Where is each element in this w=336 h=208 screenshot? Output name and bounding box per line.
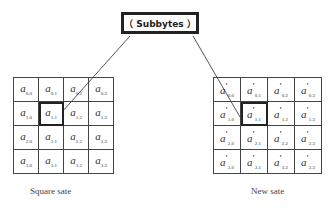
subbytes-box: （ Subbytes ） xyxy=(121,12,199,34)
state-cell: a2.3 xyxy=(89,126,114,150)
state-cell: a'1.1 xyxy=(241,102,268,126)
grid-row: a3.0a3.1a3.2a3.3 xyxy=(14,150,114,174)
grid-row: a'0.0a'0.1a'0.2a'0.3 xyxy=(214,78,322,102)
grid-row: a1.0a1.1a1.2a1.3 xyxy=(14,102,114,126)
new-state-caption: New sate xyxy=(251,186,284,196)
square-state-caption: Square sate xyxy=(30,186,71,196)
square-state-grid: a0.0a0.1a0.2a0.3a1.0a1.1a1.2a1.3a2.0a2.1… xyxy=(13,77,114,174)
state-cell: a'0.2 xyxy=(268,78,295,102)
state-cell: a'2.0 xyxy=(214,126,241,150)
state-cell: a2.0 xyxy=(14,126,39,150)
state-cell: a3.3 xyxy=(89,150,114,174)
state-cell: a'3.3 xyxy=(295,150,322,174)
state-cell: a2.2 xyxy=(64,126,89,150)
state-cell: a'3.2 xyxy=(268,150,295,174)
state-cell: a3.0 xyxy=(14,150,39,174)
grid-row: a'2.0a'2.1a'2.2a'2.3 xyxy=(214,126,322,150)
state-cell: a1.1 xyxy=(39,102,64,126)
new-state-grid: a'0.0a'0.1a'0.2a'0.3a'1.0a'1.1a'1.2a'1.3… xyxy=(213,77,322,174)
state-cell: a'3.1 xyxy=(241,150,268,174)
state-cell: a1.2 xyxy=(64,102,89,126)
state-cell: a'1.0 xyxy=(214,102,241,126)
state-cell: a'1.2 xyxy=(268,102,295,126)
state-cell: a1.0 xyxy=(14,102,39,126)
grid-row: a'3.0a'3.1a'3.2a'3.3 xyxy=(214,150,322,174)
state-cell: a3.1 xyxy=(39,150,64,174)
state-cell: a'2.1 xyxy=(241,126,268,150)
grid-row: a2.0a2.1a2.2a2.3 xyxy=(14,126,114,150)
state-cell: a3.2 xyxy=(64,150,89,174)
grid-row: a'1.0a'1.1a'1.2a'1.3 xyxy=(214,102,322,126)
state-cell: a1.3 xyxy=(89,102,114,126)
state-cell: a'0.3 xyxy=(295,78,322,102)
state-cell: a2.1 xyxy=(39,126,64,150)
state-cell: a0.1 xyxy=(39,78,64,102)
state-cell: a'2.2 xyxy=(268,126,295,150)
state-cell: a0.3 xyxy=(89,78,114,102)
state-cell: a'0.0 xyxy=(214,78,241,102)
state-cell: a0.2 xyxy=(64,78,89,102)
grid-row: a0.0a0.1a0.2a0.3 xyxy=(14,78,114,102)
state-cell: a'2.3 xyxy=(295,126,322,150)
state-cell: a'0.1 xyxy=(241,78,268,102)
state-cell: a'3.0 xyxy=(214,150,241,174)
state-cell: a0.0 xyxy=(14,78,39,102)
state-cell: a'1.3 xyxy=(295,102,322,126)
